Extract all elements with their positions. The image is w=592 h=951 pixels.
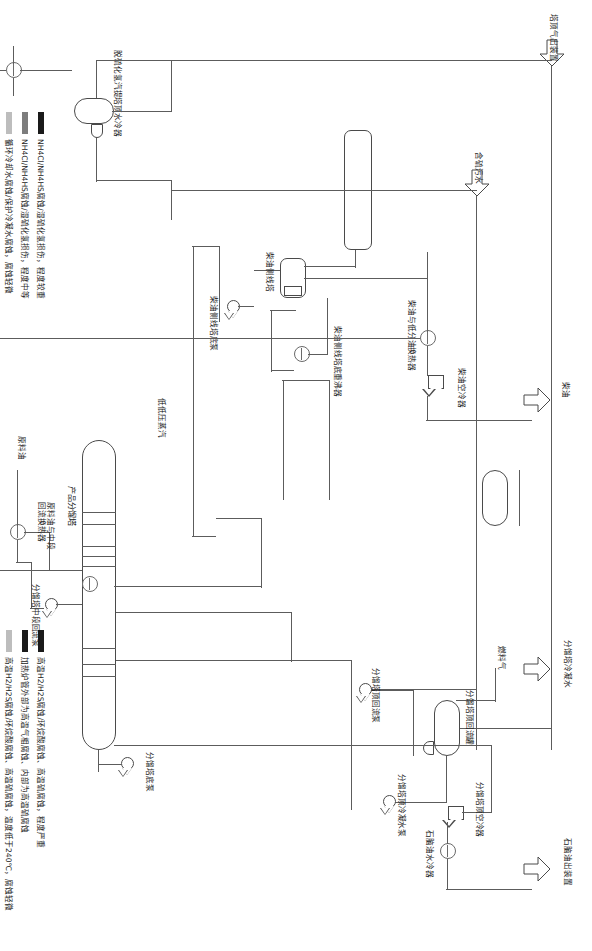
label-equipment-diesel-side-stripper: 柴油侧线塔 [265,252,274,292]
legend-row: NH4Cl/NH4HS腐蚀/湿硫化氢损伤，程度较重 [39,112,52,299]
pipe-reboiler-out-h [271,310,272,372]
label-stream-diesel-out: 柴油 [561,382,570,398]
label-equipment-fractionator-bottom-pump: 分馏塔底泵 [145,752,154,792]
pipe-furnace-to-tower [0,570,82,571]
stream-arrow-fractionator-condensate [522,655,552,683]
fractionator-tray-5 [82,566,116,567]
pipe-diesel-pump-up [238,306,254,307]
legend-text: NH4Cl/NH4HS腐蚀/湿硫化氢损伤，程度中等 [20,139,31,299]
pipe-diesel-out-run [427,396,428,420]
pipe-lowoil-to-hx [0,338,420,339]
label-equipment-feed-mid-exchanger: 原料油与中段 回流换热器 [37,502,54,549]
pipe-h2s-cond-h2 [13,78,14,96]
pipe-fractionator-overhead-h [491,745,492,813]
pipe-h2s-cond-v [20,70,72,71]
label-stream-fuel-gas-top: 燃料气 [497,646,506,670]
label-equipment-diesel-stripper-bottom-pump: 柴油侧线塔底泵 [209,296,218,351]
pipe-side-draw-to-stripper [193,246,194,536]
label-stream-naphtha-out: 石脑油出装置 [563,838,572,885]
pipe-h2s-top-up [96,180,172,181]
label-stream-fractionator-condensate: 分馏塔冷凝水 [563,640,572,687]
pipe-sour-water-header [476,190,477,750]
legend-row: NH4Cl/NH4HS腐蚀/湿硫化氢损伤，程度中等 [23,112,36,299]
label-equipment-naphtha-water-cooler: 石脑油水冷器 [425,830,434,877]
fractionator-tray-7 [82,664,116,665]
pipe-feed-hx-out [17,540,18,562]
pipe-fractionator-bottom-up [98,764,122,765]
pfd-screenshot: 塔顶气出装置 含硫污水 分馏塔冷凝水 石脑油出装置 柴油 燃料气 原料油 低低压… [0,0,592,951]
pipe-gasheader-tie [96,60,552,61]
legend-text: NH4Cl/NH4HS腐蚀/湿硫化氢损伤，程度较重 [36,139,47,299]
pipe-reboiler-out-v [272,370,294,371]
label-stream-sour-water: 含硫污水 [474,152,483,184]
legend-row: 加热炉管外部为高温气相腐蚀、内部为高温硫腐蚀 [23,630,36,911]
pipe-midpump-up [56,604,82,605]
pipe-hx-mid-v3 [16,562,32,563]
pipe-condensate-side-h [291,612,292,662]
label-equipment-h2s-stripper-overhead-water-cooler: 脱硫化氢汽提塔顶水冷器 [113,50,122,137]
legend-text: 加热炉管外部为高温气相腐蚀、内部为高温硫腐蚀 [20,657,31,833]
air-cooler-diesel-fan-icon [422,389,436,397]
pipe-h2s-drum-vapor [112,111,172,112]
pipe-reboiler-hot-supply [329,380,330,500]
stream-arrow-diesel-out [522,386,552,414]
pipe-fractionator-overhead-v [114,745,492,746]
pump-diesel-stripper-nozzle-icon [224,313,234,320]
pipe-naphtha-hx-right [447,859,448,889]
legend-top-block: NH4Cl/NH4HS腐蚀/湿硫化氢损伤，程度较重 NH4Cl/NH4HS腐蚀/… [4,112,52,299]
pfd-canvas: 塔顶气出装置 含硫污水 分馏塔冷凝水 石脑油出装置 柴油 燃料气 原料油 低低压… [0,0,592,951]
pipe-h2s-drum-vapor-h [171,60,172,112]
pipe-tower-side-draw-h [261,518,262,588]
pipe-condensate-side [116,612,292,613]
pipe-fuelgas-branch [495,668,496,702]
pipe-h2s-header-to-gas [171,180,172,220]
label-stream-tower-gas-out: 塔顶气出装置 [549,14,558,61]
fractionator-tray-4 [82,556,116,557]
diesel-stripper-internal [284,286,302,296]
pipe-drum-liquid-out [446,756,447,802]
vessel-h2s-stripper-reflux-drum [482,470,508,526]
label-stream-feedstock: 原料油 [17,436,26,460]
pipe-diesel-cooler-chain [427,346,428,376]
legend-swatch-light [7,112,13,134]
pipe-side-draw-to-stripper-v [192,536,216,537]
stream-arrow-naphtha-out [522,855,552,883]
label-equipment-fractionator-reflux-drum: 分馏塔顶回流罐 [465,690,474,745]
pipe-naphtha-up [446,889,532,890]
label-equipment-diesel-air-cooler: 柴油空冷器 [457,368,466,408]
legend-swatch-dark [39,112,45,134]
label-equipment-fractionator-condensate-pump: 分馏塔顶冷凝水泵 [397,774,406,837]
pipe-tower-side-draw [114,586,262,587]
legend-text: 高温H2/H2S腐蚀/环烷酸腐蚀、高温硫腐蚀，程度严重 [36,657,47,848]
pipe-h2s-drum-top [519,470,520,526]
label-equipment-diesel-lowoil-exchanger: 柴油与低分油换热器 [407,300,416,371]
label-equipment-fractionator-reflux-pump: 分馏塔顶回流泵 [371,668,380,723]
pipe-reflux-return-2 [292,660,352,661]
air-cooler-fractionator-overhead [448,806,464,820]
vessel-h2s-reflux-drum-main [74,98,114,124]
legend-row: 高温H2/H2S腐蚀/环烷酸腐蚀、高温硫腐蚀，程度严重 [39,630,52,911]
pipe-reboiler-in [327,298,328,354]
pipe-stripper-feed-v [192,246,220,247]
fractionator-tray-3 [82,546,116,547]
vessel-fractionator-reflux-drum [434,700,460,756]
pipe-fractionator-bottom-out [98,750,99,772]
heat-exchanger-naphtha-water-cooler [440,843,456,859]
pipe-drum-bottom-out [413,690,414,756]
pipe-tower-side-draw-v2 [216,518,262,519]
pipe-h2s-drum-out [96,138,97,182]
pump-fractionator-bottom [121,757,134,770]
fractionator-tray-1 [82,512,116,513]
label-equipment-fractionator-overhead-air-cooler: 分馏塔顶空冷器 [475,782,484,837]
pump-fractionator-bottom-nozzle-icon [118,770,128,777]
legend-swatch-dark2 [23,630,29,652]
pipe-reboiler-hot-supply-v [302,380,330,381]
pipe-reboiler-out-up [270,310,296,311]
h2s-drum-boot [91,124,103,138]
legend-swatch-mid [23,112,29,134]
legend-text: 高温H2/H2S腐蚀/环烷酸腐蚀、高温硫腐蚀，温度低于240℃，腐蚀轻微 [4,657,15,911]
pipe-diesel-in-run [427,252,428,332]
pipe-fuelgas-to-drum [456,700,496,701]
pipe-stripper-vapor-return [304,266,356,267]
pump-reflux-nozzle-icon [380,808,390,815]
